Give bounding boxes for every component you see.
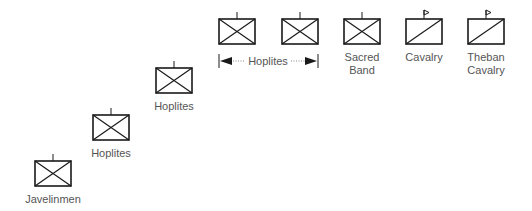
unit-sacred-band: SacredBand (344, 12, 380, 76)
unit-label: Cavalry (467, 64, 505, 76)
unit-hoplites-1: Hoplites (91, 108, 131, 159)
unit-label: Hoplites (154, 100, 194, 112)
span-left-arrow-icon (220, 57, 232, 65)
span-label: Hoplites (248, 55, 288, 67)
unit-theban-cavalry: ThebanCavalry (467, 10, 505, 76)
span-right-arrow-icon (305, 57, 317, 65)
unit-label: Theban (467, 51, 504, 63)
unit-label: Band (349, 64, 375, 76)
hoplites-span-indicator: Hoplites (219, 54, 318, 68)
flag-icon (486, 10, 491, 15)
unit-hoplites-2: Hoplites (154, 61, 194, 112)
unit-javelinmen: Javelinmen (25, 154, 81, 205)
unit-label: Cavalry (405, 51, 443, 63)
flag-icon (424, 10, 429, 15)
unit-cavalry: Cavalry (405, 10, 443, 63)
unit-label: Javelinmen (25, 193, 81, 205)
unit-hoplites-4 (282, 12, 318, 44)
unit-hoplites-3 (219, 12, 255, 44)
unit-label: Sacred (345, 51, 380, 63)
unit-label: Hoplites (91, 147, 131, 159)
diagonal-line (406, 19, 442, 44)
diagonal-line (468, 19, 504, 44)
formation-diagram: JavelinmenHoplitesHoplitesSacredBandCava… (0, 0, 532, 211)
